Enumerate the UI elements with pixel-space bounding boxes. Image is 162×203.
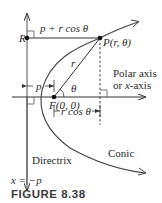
label-rcos: r cos θ bbox=[61, 105, 91, 117]
label-distance-top: p + r cos θ bbox=[39, 22, 89, 34]
label-p: p bbox=[35, 80, 42, 92]
label-polar-axis-2: or x-axis bbox=[113, 79, 151, 91]
point-P bbox=[98, 36, 103, 41]
label-directrix-eq: x = −p bbox=[10, 174, 42, 186]
theta-arc bbox=[60, 89, 64, 97]
label-directrix: Directrix bbox=[32, 154, 72, 166]
label-R: R bbox=[18, 32, 26, 44]
right-angle-axis bbox=[100, 90, 107, 97]
radius-line bbox=[54, 38, 100, 97]
label-P: P(r, θ) bbox=[102, 36, 131, 49]
right-angle-directrix bbox=[27, 97, 34, 104]
label-r: r bbox=[71, 57, 76, 69]
conic-directrix-diagram: R p + r cos θ P(r, θ) r θ Polar axis or … bbox=[0, 0, 162, 203]
figure-caption: FIGURE 8.38 bbox=[11, 188, 86, 200]
label-conic: Conic bbox=[108, 147, 134, 159]
label-theta: θ bbox=[71, 82, 77, 94]
label-polar-axis-1: Polar axis bbox=[113, 67, 157, 79]
